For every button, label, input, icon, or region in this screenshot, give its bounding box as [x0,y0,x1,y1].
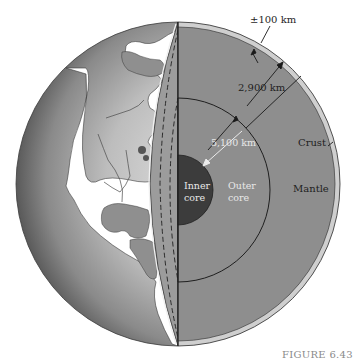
crust-thickness-leader [261,26,270,43]
outer-core-label: Outer core [228,180,256,204]
mantle-thickness-label: 2,900 km [238,83,285,93]
outer-core-label-line2: core [228,192,256,204]
great-lake [143,155,149,161]
crust-thickness-label: ±100 km [250,15,296,25]
great-lake [138,146,146,154]
core-radius-label: 5,100 km [211,138,256,148]
outer-core-label-line1: Outer [228,180,256,192]
crust-label: Crust [298,138,326,148]
figure-caption: FIGURE 6.43 [282,350,353,360]
mantle-label: Mantle [293,184,329,194]
inner-core-label: Inner core [184,180,210,204]
inner-core-label-line1: Inner [184,180,210,192]
inner-core-label-line2: core [184,192,210,204]
